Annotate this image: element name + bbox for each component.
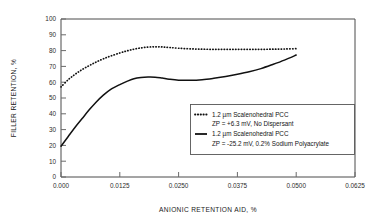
x-tick-label: 0.0250 <box>169 182 189 189</box>
chart-legend: 1.2 µm Scalenohedral PCC ZP = +6.3 mV, N… <box>191 105 355 155</box>
y-axis-title: FILLER RETENTION, % <box>10 59 17 137</box>
y-tick-label: 10 <box>49 158 57 165</box>
filler-retention-chart: 100 90 80 70 60 50 40 30 20 10 0 0.000 0… <box>0 0 380 224</box>
y-tick-label: 80 <box>49 47 57 54</box>
legend-entry-0-line1: 1.2 µm Scalenohedral PCC <box>212 111 289 119</box>
legend-entry-1-line2: ZP = -25.2 mV, 0.2% Sodium Polyacrylate <box>212 140 330 148</box>
y-tick-label: 20 <box>49 142 57 149</box>
y-tick-label: 50 <box>49 94 57 101</box>
y-tick-label: 100 <box>45 15 56 22</box>
x-tick-label: 0.0125 <box>110 182 130 189</box>
y-tick-label: 0 <box>52 173 56 180</box>
x-axis-title: ANIONIC RETENTION AID, % <box>159 206 257 213</box>
x-tick-label: 0.0625 <box>345 182 365 189</box>
x-tick-label: 0.0375 <box>228 182 248 189</box>
y-tick-label: 90 <box>49 31 57 38</box>
y-tick-label: 30 <box>49 126 57 133</box>
y-tick-label: 40 <box>49 110 57 117</box>
legend-entry-1-line1: 1.2 µm Scalenohedral PCC <box>212 130 289 138</box>
legend-entry-0-line2: ZP = +6.3 mV, No Dispersant <box>212 120 294 128</box>
x-tick-label: 0.000 <box>53 182 69 189</box>
y-tick-label: 70 <box>49 63 57 70</box>
x-tick-label: 0.0500 <box>286 182 306 189</box>
chart-screenshot: 100 90 80 70 60 50 40 30 20 10 0 0.000 0… <box>0 0 380 224</box>
y-tick-label: 60 <box>49 79 57 86</box>
